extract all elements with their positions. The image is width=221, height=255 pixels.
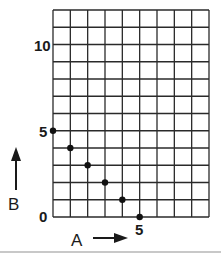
grid: [53, 10, 209, 217]
y-axis-arrow-icon: [11, 147, 21, 190]
data-point: [84, 162, 90, 168]
x-axis-arrow-icon: [93, 233, 128, 243]
data-point: [102, 179, 108, 185]
y-axis-label: B: [8, 195, 19, 214]
y-tick-5: 5: [39, 123, 47, 140]
x-axis-label: A: [71, 231, 83, 250]
data-point: [50, 128, 56, 134]
y-tick-0: 0: [39, 208, 47, 225]
data-points: [50, 128, 143, 221]
divider: [0, 251, 221, 253]
data-point: [119, 197, 125, 203]
x-tick-5: 5: [135, 221, 143, 238]
y-tick-10: 10: [34, 37, 51, 54]
data-point: [67, 145, 73, 151]
chart: 10 5 0 5 B A: [0, 0, 221, 255]
data-point: [136, 214, 142, 220]
